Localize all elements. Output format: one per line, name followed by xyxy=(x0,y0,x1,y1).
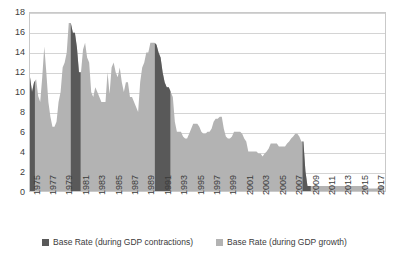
x-tick-label-1987: 1987 xyxy=(131,175,140,195)
legend-item-contraction: Base Rate (during GDP contractions) xyxy=(42,234,193,250)
y-tick-label-10: 10 xyxy=(15,88,25,97)
x-tick-label-2001: 2001 xyxy=(246,175,255,195)
legend-label-contraction: Base Rate (during GDP contractions) xyxy=(53,238,193,247)
y-tick-label-8: 8 xyxy=(20,108,25,117)
x-tick-label-2007: 2007 xyxy=(295,175,304,195)
legend-swatch-growth xyxy=(216,239,223,246)
y-tick-label-4: 4 xyxy=(20,148,25,157)
x-tick-label-2013: 2013 xyxy=(344,175,353,195)
chart-legend: Base Rate (during GDP contractions) Base… xyxy=(0,234,401,250)
base-rate-area-chart: 024681012141618 197519771979198119831985… xyxy=(0,0,401,260)
x-tick-label-1989: 1989 xyxy=(147,175,156,195)
x-tick-label-1993: 1993 xyxy=(180,175,189,195)
x-tick-label-2005: 2005 xyxy=(279,175,288,195)
y-tick-label-18: 18 xyxy=(15,8,25,17)
x-tick-label-1975: 1975 xyxy=(33,175,42,195)
area-contraction-1 xyxy=(71,23,81,191)
y-tick-label-12: 12 xyxy=(15,68,25,77)
legend-item-growth: Base Rate (during GDP growth) xyxy=(216,234,347,250)
x-tick-label-1999: 1999 xyxy=(229,175,238,195)
y-tick-label-2: 2 xyxy=(20,168,25,177)
area-growth xyxy=(30,23,384,191)
legend-label-growth: Base Rate (during GDP growth) xyxy=(227,238,347,247)
x-tick-label-2015: 2015 xyxy=(361,175,370,195)
x-tick-label-1981: 1981 xyxy=(82,175,91,195)
x-tick-label-1983: 1983 xyxy=(98,175,107,195)
plot-area xyxy=(29,12,386,192)
y-tick-label-0: 0 xyxy=(20,188,25,197)
y-tick-label-16: 16 xyxy=(15,28,25,37)
x-tick-label-1977: 1977 xyxy=(49,175,58,195)
x-tick-label-2003: 2003 xyxy=(262,175,271,195)
y-axis: 024681012141618 xyxy=(0,0,29,194)
x-tick-label-1979: 1979 xyxy=(65,175,74,195)
area-contraction-0 xyxy=(30,77,35,191)
y-tick-label-6: 6 xyxy=(20,128,25,137)
x-tick-label-2017: 2017 xyxy=(377,175,386,195)
x-tick-label-1985: 1985 xyxy=(115,175,124,195)
x-tick-label-1997: 1997 xyxy=(213,175,222,195)
x-tick-label-1991: 1991 xyxy=(164,175,173,195)
x-tick-label-2011: 2011 xyxy=(328,176,337,195)
x-tick-label-1995: 1995 xyxy=(197,175,206,195)
x-tick-label-2009: 2009 xyxy=(312,175,321,195)
x-axis: 1975197719791981198319851987198919911993… xyxy=(29,194,386,228)
legend-swatch-contraction xyxy=(42,239,49,246)
y-tick-label-14: 14 xyxy=(15,48,25,57)
chart-series-layer xyxy=(30,13,385,191)
area-contraction-2 xyxy=(155,43,171,191)
